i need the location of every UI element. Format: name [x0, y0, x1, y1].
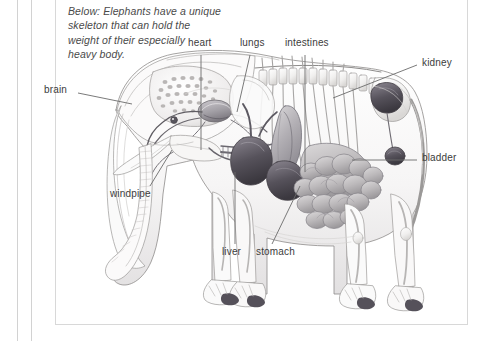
page-rule-left-inner: [31, 0, 32, 341]
label-bladder: bladder: [422, 152, 456, 163]
caption-line-3: weight of their especially: [68, 33, 268, 47]
figure-caption: Below: Elephants have a unique skeleton …: [68, 4, 268, 61]
caption-line-2: skeleton that can hold the: [68, 18, 268, 32]
label-kidney: kidney: [422, 57, 452, 68]
caption-line-1: Below: Elephants have a unique: [68, 4, 268, 18]
label-intestines: intestines: [285, 37, 329, 48]
label-stomach: stomach: [256, 246, 295, 257]
figure-page: brain heart lungs intestines kidney blad…: [0, 0, 480, 341]
caption-line-4: heavy body.: [68, 47, 268, 61]
label-brain: brain: [44, 84, 67, 95]
label-liver: liver: [222, 246, 241, 257]
page-rule-left-outer: [17, 0, 18, 341]
label-windpipe: windpipe: [110, 188, 151, 199]
